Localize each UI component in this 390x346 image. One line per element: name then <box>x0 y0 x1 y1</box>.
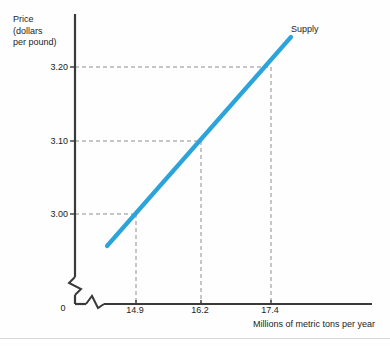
y-axis-break-mark <box>69 277 81 295</box>
x-tick-label-149: 14.9 <box>117 305 153 316</box>
supply-curve-figure: Price(dollarsper pound) 3.20 3.10 3.00 1… <box>0 0 390 346</box>
chart-plot-area <box>0 0 390 346</box>
y-axis-title: Price(dollarsper pound) <box>13 14 57 49</box>
y-tick-label-300: 3.00 <box>28 209 68 220</box>
y-tick-label-320: 3.20 <box>28 62 68 73</box>
series-label-supply: Supply <box>291 24 319 35</box>
x-tick-label-174: 17.4 <box>252 305 288 316</box>
x-axis-break-mark <box>86 296 104 308</box>
origin-label: 0 <box>56 303 70 314</box>
figure-bottom-rule <box>0 338 390 339</box>
y-axis-title-line2: (dollars <box>13 26 43 36</box>
y-axis-title-line3: per pound) <box>13 37 57 47</box>
y-tick-label-310: 3.10 <box>28 136 68 147</box>
x-tick-label-162: 16.2 <box>182 305 218 316</box>
x-axis-title: Millions of metric tons per year <box>253 319 375 330</box>
y-axis-title-line1: Price <box>13 14 34 24</box>
